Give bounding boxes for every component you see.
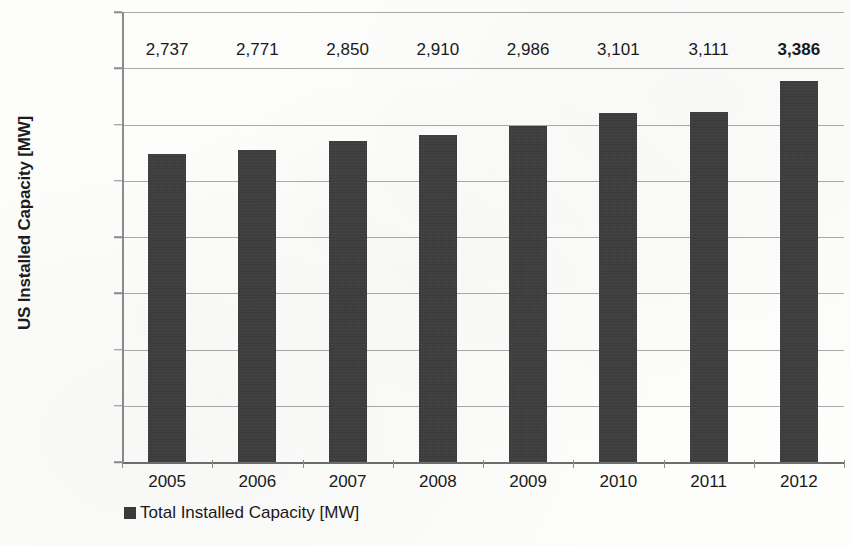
x-axis-tick-mark	[393, 460, 394, 468]
x-axis-tick-label: 2011	[690, 472, 727, 492]
x-axis-tick-mark	[483, 460, 484, 468]
x-axis-labels-group: 20052006200720082009201020112012	[122, 468, 844, 498]
y-axis-tick-mark	[114, 349, 122, 351]
bar	[690, 112, 728, 462]
gridline	[122, 181, 844, 182]
bar	[780, 81, 818, 462]
bar-value-label: 3,386	[778, 40, 821, 60]
y-axis-title: US Installed Capacity [MW]	[15, 43, 35, 403]
bar-value-label: 2,910	[417, 40, 460, 60]
gridline	[122, 68, 844, 69]
y-axis-tick-mark	[114, 11, 122, 13]
x-axis-tick-mark	[122, 460, 123, 468]
gridline	[122, 293, 844, 294]
x-axis-tick-mark	[844, 460, 845, 468]
x-axis-tick-label: 2012	[780, 472, 818, 492]
bar-value-label: 2,850	[326, 40, 369, 60]
x-axis-tick-mark	[664, 460, 665, 468]
bar-value-label: 3,101	[597, 40, 640, 60]
y-axis-tick-mark	[114, 461, 122, 463]
bar-value-label: 3,111	[689, 40, 729, 60]
plot-area: 05001,0001,5002,0002,5003,0003,5004,000 …	[122, 12, 844, 462]
gridline	[122, 406, 844, 407]
y-axis-tick-mark	[114, 68, 122, 70]
legend-entry-label: Total Installed Capacity [MW]	[140, 503, 359, 523]
gridline	[122, 350, 844, 351]
x-axis-tick-label: 2007	[329, 472, 367, 492]
x-axis-tick-label: 2006	[238, 472, 276, 492]
bar-value-label: 2,737	[146, 40, 189, 60]
x-axis-tick-label: 2009	[509, 472, 547, 492]
bar	[509, 126, 547, 462]
gridline	[122, 12, 844, 13]
y-axis-tick-mark	[114, 180, 122, 182]
bar	[599, 113, 637, 462]
legend-swatch-icon	[124, 507, 136, 519]
x-axis-tick-mark	[303, 460, 304, 468]
chart-legend: Total Installed Capacity [MW]	[124, 503, 359, 523]
y-axis-tick-mark	[114, 405, 122, 407]
gridline	[122, 125, 844, 126]
y-axis-tick-mark	[114, 124, 122, 126]
chart-screenshot: US Installed Capacity [MW] 05001,0001,50…	[0, 0, 850, 546]
bar	[148, 154, 186, 462]
bar	[329, 141, 367, 462]
bar-value-label: 2,771	[236, 40, 279, 60]
y-axis-tick-mark	[114, 236, 122, 238]
bar	[419, 135, 457, 462]
y-axis-line	[122, 12, 124, 463]
x-axis-tick-mark	[573, 460, 574, 468]
gridline	[122, 237, 844, 238]
bar	[238, 150, 276, 462]
x-axis-tick-label: 2005	[148, 472, 186, 492]
bar-value-label: 2,986	[507, 40, 550, 60]
y-axis-tick-mark	[114, 293, 122, 295]
x-axis-tick-label: 2008	[419, 472, 457, 492]
x-axis-tick-mark	[212, 460, 213, 468]
x-axis-tick-mark	[754, 460, 755, 468]
x-axis-tick-label: 2010	[599, 472, 637, 492]
